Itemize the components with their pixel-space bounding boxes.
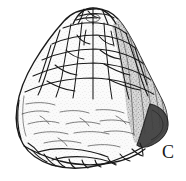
specimen-figure: C — [0, 0, 186, 181]
figure-label: C — [162, 142, 174, 162]
specimen-illustration — [0, 0, 186, 181]
